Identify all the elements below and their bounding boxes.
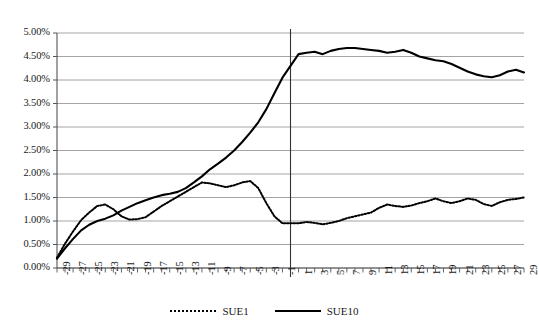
y-axis-label: 0.00% — [2, 261, 50, 272]
x-axis-label: 1 — [303, 270, 314, 275]
chart-legend: SUE1SUE10 — [0, 305, 529, 317]
x-axis-label: -23 — [109, 261, 120, 275]
x-axis-label: -17 — [158, 261, 169, 275]
x-axis-label: 27 — [512, 265, 523, 275]
x-axis-label: -21 — [125, 261, 136, 275]
x-axis-label: -9 — [222, 266, 233, 275]
y-axis-label: 2.50% — [2, 144, 50, 155]
y-axis-label: 3.50% — [2, 97, 50, 108]
x-axis-label: 9 — [367, 270, 378, 275]
x-axis-label: 15 — [415, 265, 426, 275]
x-axis-label: 25 — [496, 265, 507, 275]
x-axis-label: 13 — [399, 265, 410, 275]
x-axis-label: -5 — [254, 266, 265, 275]
x-axis-label: 19 — [447, 265, 458, 275]
legend-label: SUE10 — [327, 305, 359, 317]
legend-swatch-solid-icon — [275, 306, 321, 316]
y-axis-label: 5.00% — [2, 26, 50, 37]
legend-swatch-dotted-icon — [170, 306, 216, 316]
y-axis-label: 3.00% — [2, 120, 50, 131]
legend-item-sue1: SUE1 — [170, 305, 248, 317]
x-axis-label: -3 — [270, 266, 281, 275]
x-axis-label: -25 — [93, 261, 104, 275]
x-axis-label: -11 — [206, 262, 217, 275]
x-axis-label: -27 — [77, 261, 88, 275]
x-axis-label: -29 — [61, 261, 72, 275]
y-axis-label: 1.50% — [2, 191, 50, 202]
x-axis-label: 5 — [335, 270, 346, 275]
y-axis-label: 2.00% — [2, 167, 50, 178]
y-axis-label: 4.50% — [2, 50, 50, 61]
x-axis-label: -1 — [286, 266, 297, 275]
x-axis-label: 21 — [464, 265, 475, 275]
x-axis-label: -19 — [142, 261, 153, 275]
x-axis-label: -7 — [238, 266, 249, 275]
legend-item-sue10: SUE10 — [275, 305, 359, 317]
x-axis-label: 23 — [480, 265, 491, 275]
x-axis-label: -15 — [174, 261, 185, 275]
x-axis-label: 3 — [319, 270, 330, 275]
y-axis-label: 0.50% — [2, 238, 50, 249]
x-axis-label: 29 — [528, 265, 539, 275]
y-axis-label: 1.00% — [2, 214, 50, 225]
x-axis-label: 7 — [351, 270, 362, 275]
x-axis-label: 11 — [383, 265, 394, 275]
x-axis-label: 17 — [431, 265, 442, 275]
legend-label: SUE1 — [222, 305, 248, 317]
y-axis-label: 4.00% — [2, 73, 50, 84]
x-axis-label: -13 — [190, 261, 201, 275]
